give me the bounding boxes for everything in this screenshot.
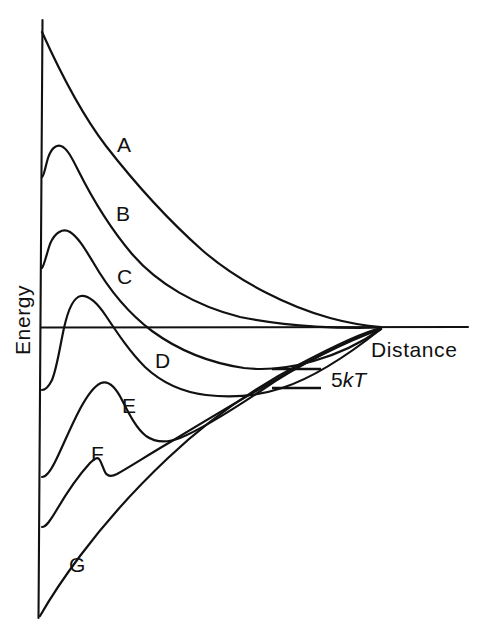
curve-label-b: B — [116, 202, 131, 225]
curve-a — [42, 32, 381, 327]
distance-axis-label: Distance — [371, 338, 458, 361]
scale-bar-label: 5kT — [331, 368, 368, 391]
curve-label-g: G — [69, 553, 86, 576]
curve-f-main — [42, 329, 381, 528]
curve-label-d: D — [155, 349, 171, 372]
curve-label-a: A — [117, 133, 132, 156]
energy-axis-label: Energy — [11, 285, 34, 355]
energy-distance-plot: Energy Distance 5kT A B C D E F G — [0, 0, 481, 635]
distance-axis-line — [42, 327, 469, 328]
figure-root: Energy Distance 5kT A B C D E F G — [0, 0, 481, 635]
curve-g — [40, 328, 381, 616]
curve-label-e: E — [122, 394, 137, 417]
scale-bar-value: 5 — [331, 368, 343, 391]
scale-bar-units: kT — [343, 368, 369, 391]
labels-group: Energy Distance 5kT A B C D E F G — [11, 133, 458, 576]
energy-axis-line — [39, 20, 43, 618]
curves-group — [40, 32, 381, 616]
curve-label-c: C — [117, 265, 133, 288]
curve-label-f: F — [91, 442, 104, 465]
